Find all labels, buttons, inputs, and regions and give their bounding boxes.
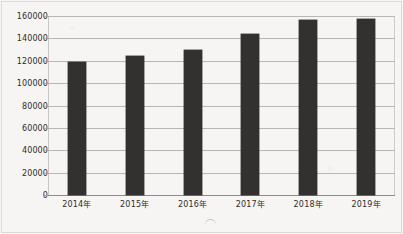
bar: [241, 34, 259, 195]
y-axis: 0200004000060000800001000001200001400001…: [0, 0, 48, 234]
x-axis-tick-label: 2015年: [120, 198, 149, 209]
gridline: [48, 150, 395, 151]
y-axis-tick-label: 60000: [4, 123, 48, 132]
y-axis-tick-label: 20000: [4, 168, 48, 177]
scan-artifact-mark: [205, 219, 216, 226]
x-axis-tick-label: 2014年: [62, 198, 91, 209]
x-axis-tick-label: 2017年: [236, 198, 265, 209]
bar: [126, 56, 144, 195]
y-axis-tick-label: 40000: [4, 146, 48, 155]
bar: [299, 20, 317, 195]
gridline: [48, 61, 395, 62]
x-axis-tick-label: 2016年: [178, 198, 207, 209]
bar: [68, 62, 86, 195]
x-axis: 2014年2015年2016年2017年2018年2019年: [48, 198, 395, 214]
y-axis-tick-label: 80000: [4, 101, 48, 110]
gridline: [48, 16, 395, 17]
y-axis-tick-label: 0: [4, 191, 48, 200]
y-axis-tick-label: 120000: [4, 56, 48, 65]
gridline: [48, 38, 395, 39]
gridline: [48, 195, 395, 196]
x-axis-tick-label: 2018年: [294, 198, 323, 209]
plot-area: [48, 16, 395, 195]
gridline: [48, 173, 395, 174]
y-axis-tick-label: 140000: [4, 34, 48, 43]
gridline: [48, 128, 395, 129]
bar: [357, 19, 375, 195]
y-axis-tick-label: 100000: [4, 79, 48, 88]
gridline: [48, 83, 395, 84]
x-axis-tick-label: 2019年: [351, 198, 380, 209]
y-axis-tick-label: 160000: [4, 12, 48, 21]
gridline: [48, 106, 395, 107]
bar: [184, 50, 202, 195]
bar-chart-figure: 0200004000060000800001000001200001400001…: [0, 0, 403, 234]
